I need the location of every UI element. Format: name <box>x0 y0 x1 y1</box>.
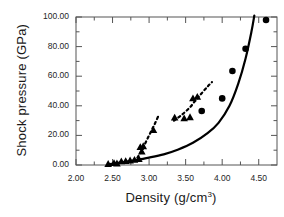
data-marker-circle <box>229 68 236 75</box>
plot-frame <box>76 17 277 165</box>
data-marker-triangle <box>150 126 158 133</box>
data-marker-circle <box>219 95 226 102</box>
solid-curve <box>108 16 254 165</box>
data-curves <box>108 16 254 165</box>
dashed-curve-upper <box>174 82 212 120</box>
data-marker-circle <box>242 46 249 53</box>
x-tick-label: 3.50 <box>166 173 206 183</box>
x-tick-label: 3.00 <box>129 173 169 183</box>
y-tick-label: 40.00 <box>29 100 69 110</box>
data-marker-circle <box>263 17 270 24</box>
x-axis-title: Density (g/cm3) <box>96 190 246 205</box>
data-marker-circle <box>198 108 205 115</box>
data-marker-triangle <box>186 113 194 120</box>
y-tick-label: 80.00 <box>29 41 69 51</box>
plot-border <box>76 17 277 165</box>
y-tick-label: 60.00 <box>29 70 69 80</box>
x-tick-label: 2.00 <box>56 173 96 183</box>
y-tick-label: 0.00 <box>29 159 69 169</box>
y-tick-label: 100.00 <box>29 11 69 21</box>
x-tick-label: 4.00 <box>202 173 242 183</box>
y-tick-label: 20.00 <box>29 129 69 139</box>
x-tick-label: 4.50 <box>239 173 279 183</box>
data-markers <box>104 17 269 167</box>
shock-pressure-density-chart: Shock pressure (GPa) Density (g/cm3) 0.0… <box>0 0 284 217</box>
y-axis-title: Shock pressure (GPa) <box>14 27 29 157</box>
data-marker-triangle <box>180 114 188 121</box>
tick-marks <box>76 17 277 165</box>
x-axis-title-base: Density (g/cm <box>125 190 207 205</box>
x-axis-title-tail: ) <box>212 190 217 205</box>
x-tick-label: 2.50 <box>93 173 133 183</box>
